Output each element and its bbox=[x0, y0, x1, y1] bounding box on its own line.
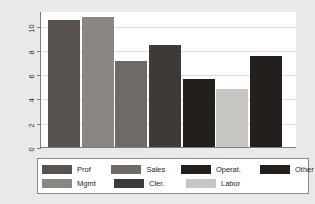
bar bbox=[216, 89, 248, 147]
bar bbox=[115, 61, 147, 147]
legend-item: Operat. bbox=[181, 162, 260, 176]
y-tick-mark bbox=[37, 148, 41, 149]
legend-label: Operat. bbox=[216, 165, 241, 174]
legend-label: Sales bbox=[146, 165, 165, 174]
legend-swatch bbox=[42, 165, 72, 174]
legend-row-2: MgmtCler.Labor bbox=[42, 176, 306, 190]
legend-item: Mgmt bbox=[42, 176, 114, 190]
legend-item: Other bbox=[260, 162, 306, 176]
legend-label: Mgmt bbox=[77, 179, 96, 188]
chart-figure: mean of wage 0246810 ProfSalesOperat.Oth… bbox=[0, 0, 315, 204]
bar-series bbox=[41, 12, 296, 147]
legend-item: Sales bbox=[111, 162, 180, 176]
bar bbox=[250, 56, 282, 147]
legend-item: Cler. bbox=[114, 176, 186, 190]
legend-label: Other bbox=[295, 165, 314, 174]
legend-swatch bbox=[181, 165, 211, 174]
y-tick-label: 8 bbox=[27, 45, 36, 59]
y-tick-label: 0 bbox=[27, 143, 36, 157]
y-tick-label: 6 bbox=[27, 70, 36, 84]
y-axis-tick-labels: 0246810 bbox=[24, 14, 38, 146]
plot-area bbox=[40, 12, 296, 148]
legend-label: Labor bbox=[221, 179, 240, 188]
y-tick-label: 2 bbox=[27, 118, 36, 132]
legend-item: Labor bbox=[186, 176, 268, 190]
legend-label: Cler. bbox=[149, 179, 164, 188]
legend-swatch bbox=[111, 165, 141, 174]
legend-label: Prof bbox=[77, 165, 91, 174]
legend-item: Prof bbox=[42, 162, 111, 176]
bar bbox=[48, 20, 80, 148]
bar bbox=[183, 79, 215, 147]
y-tick-label: 4 bbox=[27, 94, 36, 108]
legend-swatch bbox=[114, 179, 144, 188]
legend-swatch bbox=[186, 179, 216, 188]
legend-row-1: ProfSalesOperat.Other bbox=[42, 162, 306, 176]
chart-legend: ProfSalesOperat.Other MgmtCler.Labor bbox=[37, 158, 309, 194]
bar bbox=[82, 17, 114, 147]
legend-swatch bbox=[260, 165, 290, 174]
bar bbox=[149, 45, 181, 147]
legend-swatch bbox=[42, 179, 72, 188]
y-tick-label: 10 bbox=[27, 21, 36, 35]
